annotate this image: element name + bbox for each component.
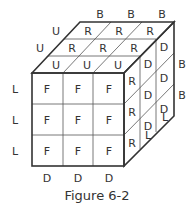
outer-label-down: D [43,172,51,185]
right-sticker: D [144,89,152,102]
top-sticker: U [52,59,60,72]
outer-label-back: B [178,58,186,71]
top-sticker: R [99,42,107,55]
top-sticker: U [83,59,91,72]
outer-label-down: D [74,172,82,185]
outer-label-down: D [105,172,113,185]
outer-label-back: B [178,89,186,102]
front-sticker: F [44,145,50,158]
outer-label-left: L [145,129,152,142]
right-sticker: D [144,58,152,71]
outer-label-left: L [162,111,169,124]
outer-label-up: U [36,42,44,55]
figure-caption: Figure 6-2 [0,188,194,203]
top-sticker: R [130,42,138,55]
front-sticker: F [106,83,112,96]
outer-label-back: B [127,8,135,21]
outer-label-up: U [52,25,60,38]
front-sticker: F [75,145,81,158]
outer-label-back: B [96,8,104,21]
front-sticker: F [106,145,112,158]
cube-diagram: FFFFFFFFFRRRRRRUUURDDRDDRDDBBBUULLLDDDBB… [0,0,194,209]
top-sticker: R [84,25,92,38]
top-sticker: R [146,25,154,38]
outer-label-left: L [12,145,19,158]
outer-label-left: L [12,83,19,96]
right-sticker: R [128,106,136,119]
front-sticker: F [44,114,50,127]
right-sticker: D [160,41,168,54]
front-sticker: F [106,114,112,127]
right-sticker: R [128,137,136,150]
top-sticker: R [115,25,123,38]
outer-label-back: B [158,8,166,21]
right-sticker: R [128,75,136,88]
top-sticker: U [114,59,122,72]
outer-label-left: L [12,114,19,127]
front-sticker: F [44,83,50,96]
front-sticker: F [75,83,81,96]
front-sticker: F [75,114,81,127]
right-sticker: D [160,72,168,85]
top-sticker: R [68,42,76,55]
